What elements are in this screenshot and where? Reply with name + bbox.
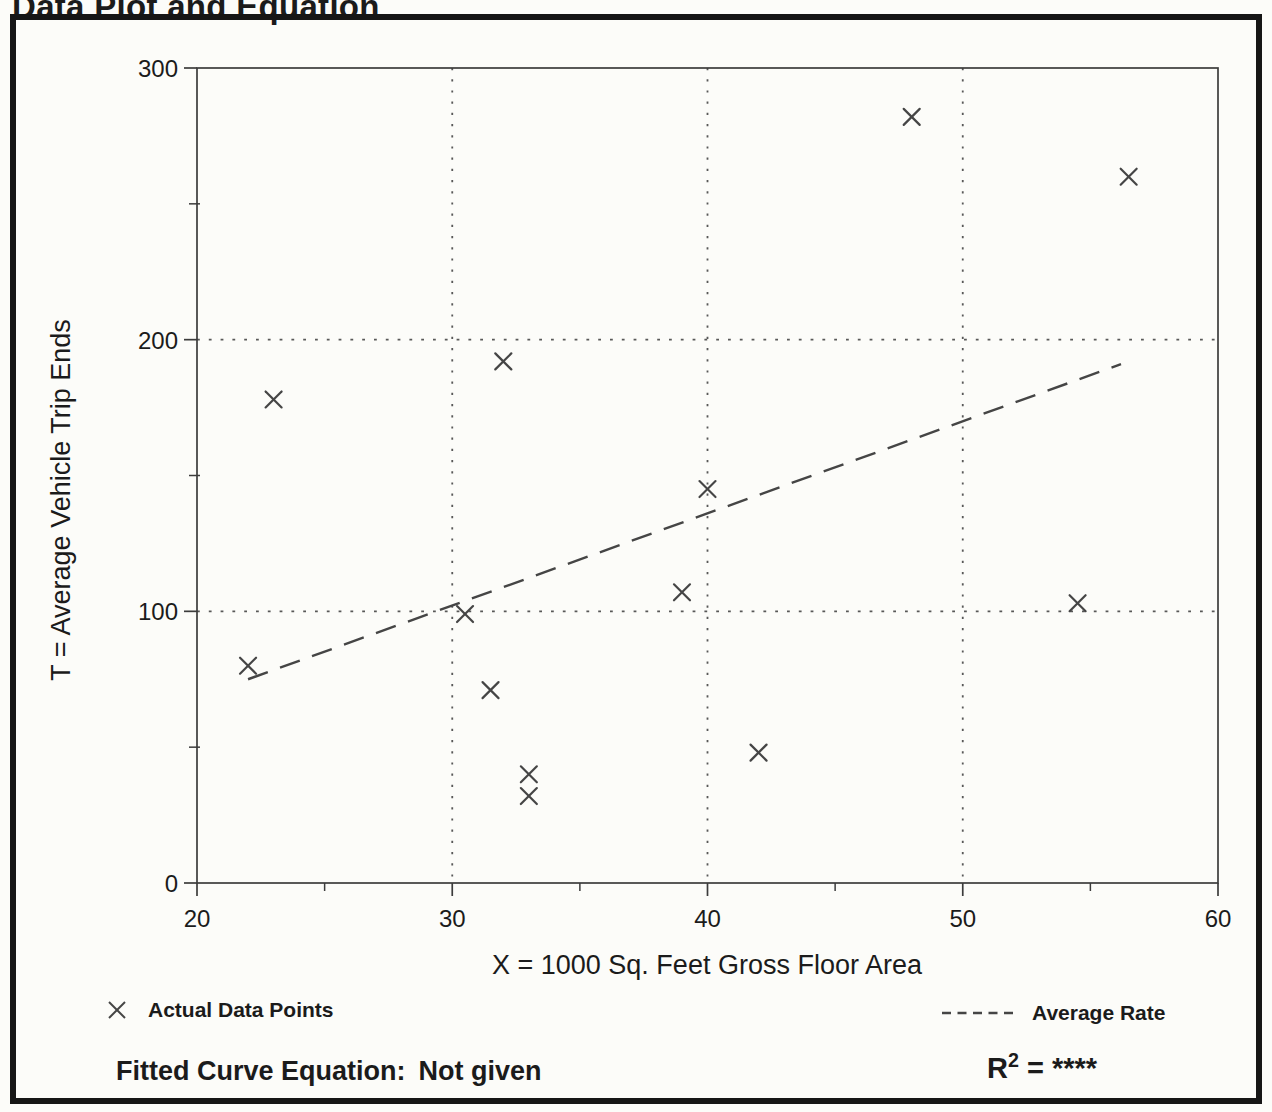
- data-point-marker: [904, 109, 920, 125]
- r-squared-exponent: 2: [1008, 1049, 1019, 1071]
- fitted-curve-equation-value: Not given: [419, 1056, 542, 1086]
- trend-line: [248, 364, 1121, 679]
- legend-actual-data-points: Actual Data Points: [104, 997, 334, 1023]
- data-point-marker: [483, 682, 499, 698]
- data-point-marker: [495, 353, 511, 369]
- data-point-marker: [266, 391, 282, 407]
- x-tick-label: 20: [184, 905, 211, 932]
- x-tick-label: 30: [439, 905, 466, 932]
- y-axis-label: T = Average Vehicle Trip Ends: [46, 319, 76, 680]
- y-tick-label: 0: [165, 870, 178, 897]
- data-point-marker: [457, 606, 473, 622]
- plot-frame: [197, 68, 1218, 883]
- dashed-line-icon: [942, 1010, 1018, 1016]
- data-point-marker: [1121, 169, 1137, 185]
- data-point-marker: [521, 766, 537, 782]
- r-squared-value: = ****: [1027, 1052, 1097, 1084]
- data-point-marker: [674, 584, 690, 600]
- scatter-plot: 20304050600100200300 X = 1000 Sq. Feet G…: [0, 0, 1272, 1112]
- legend-average-rate: Average Rate: [942, 1001, 1165, 1025]
- x-tick-label: 60: [1205, 905, 1232, 932]
- x-axis-label: X = 1000 Sq. Feet Gross Floor Area: [492, 950, 923, 980]
- data-point-marker: [240, 658, 256, 674]
- r-squared: R2= ****: [987, 1052, 1097, 1085]
- grid-layer: [197, 68, 1218, 883]
- data-point-marker: [1070, 595, 1086, 611]
- data-point-marker: [521, 788, 537, 804]
- r-squared-base: R: [987, 1052, 1008, 1084]
- y-tick-label: 200: [138, 327, 178, 354]
- y-tick-label: 300: [138, 55, 178, 82]
- x-marker-icon: [104, 997, 130, 1023]
- axes-layer: 20304050600100200300: [138, 55, 1231, 932]
- data-point-marker: [751, 745, 767, 761]
- series-layer: [240, 109, 1137, 804]
- legend-average-rate-label: Average Rate: [1032, 1001, 1165, 1025]
- fitted-curve-equation: Fitted Curve Equation:Not given: [116, 1056, 542, 1087]
- legend-actual-data-points-label: Actual Data Points: [148, 998, 334, 1022]
- x-tick-label: 40: [694, 905, 721, 932]
- fitted-curve-equation-label: Fitted Curve Equation:: [116, 1056, 406, 1086]
- y-tick-label: 100: [138, 598, 178, 625]
- x-tick-label: 50: [949, 905, 976, 932]
